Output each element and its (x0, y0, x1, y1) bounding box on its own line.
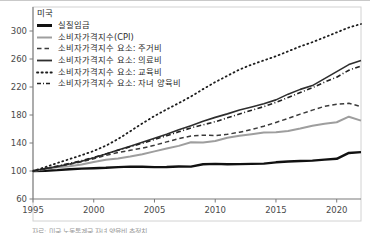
chart-legend: 미국 실질임금 소비자가격지수(CPI) 소비자가격지수 요소: 주거비 소비자… (36, 8, 246, 90)
y-axis-tick-label: 220 (11, 82, 27, 92)
legend-swatch-solid-gray-icon (36, 32, 53, 43)
x-axis-tick-label: 2015 (265, 205, 287, 215)
legend-label-education: 소비자가격지수 요소: 교육비 (58, 67, 162, 78)
legend-swatch-solid-thick-icon (36, 20, 53, 31)
legend-label-childcare: 소비자가격지수 요소: 자녀 양육비 (58, 78, 181, 89)
legend-item-healthcare: 소비자가격지수 요소: 의료비 (36, 55, 246, 67)
legend-swatch-dashdot-icon (36, 78, 53, 89)
x-axis-tick-label: 2005 (144, 205, 166, 215)
legend-item-education: 소비자가격지수 요소: 교육비 (36, 66, 246, 78)
legend-item-childcare: 소비자가격지수 요소: 자녀 양육비 (36, 78, 246, 90)
legend-label-real-wage: 실질임금 (58, 20, 90, 31)
chart-figure: 6010014018022026030019952000200520102015… (0, 0, 370, 233)
legend-item-cpi: 소비자가격지수(CPI) (36, 32, 246, 44)
y-axis-tick-label: 140 (11, 138, 27, 148)
legend-swatch-dotted-icon (36, 67, 53, 78)
legend-label-healthcare: 소비자가격지수 요소: 의료비 (58, 55, 162, 66)
series-line-소비자가격지수(CPI) (33, 117, 361, 171)
figure-caption: 자료: 미국 노동통계국 자녀 양육비 추정치 (32, 226, 147, 233)
legend-title: 미국 (37, 8, 246, 18)
x-axis-tick-label: 2000 (83, 205, 105, 215)
legend-label-housing: 소비자가격지수 요소: 주거비 (58, 43, 162, 54)
x-axis-tick-label: 2010 (204, 205, 226, 215)
legend-item-real-wage: 실질임금 (36, 20, 246, 32)
x-axis-tick-label: 2020 (326, 205, 348, 215)
y-axis-tick-label: 100 (11, 166, 27, 176)
x-axis-tick-label: 1995 (22, 205, 44, 215)
y-axis-tick-label: 260 (11, 54, 27, 64)
legend-swatch-dashed-icon (36, 43, 53, 54)
legend-swatch-solid-dark-icon (36, 55, 53, 66)
y-axis-tick-label: 180 (11, 110, 27, 120)
y-axis-tick-label: 60 (16, 194, 27, 204)
legend-item-housing: 소비자가격지수 요소: 주거비 (36, 43, 246, 55)
y-axis-tick-label: 300 (11, 26, 27, 36)
legend-label-cpi: 소비자가격지수(CPI) (58, 32, 134, 43)
